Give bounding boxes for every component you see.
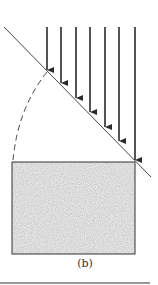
material-block <box>12 162 135 254</box>
dashed-arc <box>13 72 47 160</box>
figure-label: (b) <box>0 257 158 270</box>
incident-arrows <box>47 27 135 160</box>
inclined-surface-line <box>4 27 151 177</box>
diagram-figure <box>0 0 158 285</box>
